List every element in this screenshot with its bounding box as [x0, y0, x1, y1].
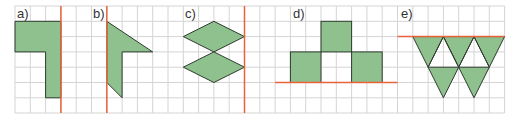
panel-b: b) — [93, 6, 153, 113]
shape-a — [15, 21, 61, 98]
shape-d-left — [290, 52, 321, 83]
panel-d-label: d) — [293, 6, 305, 21]
panel-c-label: c) — [185, 6, 196, 21]
panel-b-label: b) — [93, 6, 105, 21]
panel-a: a) — [15, 6, 61, 113]
panel-e-label: e) — [401, 6, 413, 21]
shape-c-bottom — [183, 52, 244, 83]
symmetry-diagram: a) b) c) d) e) — [0, 0, 520, 121]
shape-b — [107, 21, 153, 98]
shape-d-right — [352, 52, 383, 83]
shape-c-top — [183, 21, 244, 52]
panel-a-label: a) — [17, 6, 29, 21]
shape-d-top — [321, 21, 352, 52]
